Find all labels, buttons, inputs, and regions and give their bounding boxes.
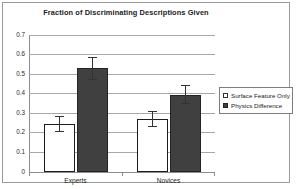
gridline: [29, 74, 215, 75]
error-bar-stem: [92, 57, 93, 80]
chart-legend: Surface Feature Only Physics Difference: [219, 87, 293, 114]
error-bar-cap-top: [181, 85, 190, 86]
error-bar-cap-top: [88, 57, 97, 58]
x-tick-label-experts: Experts: [46, 177, 106, 184]
x-axis-tick: [214, 172, 215, 176]
bar-novices-surface: [137, 119, 168, 172]
y-axis-tick-labels: 00.10.20.30.40.50.60.7: [1, 35, 25, 172]
y-tick-label: 0.7: [1, 32, 25, 38]
y-tick-label: 0.6: [1, 51, 25, 57]
plot-area: ExpertsNovices: [29, 35, 215, 172]
error-bar-cap-bottom: [55, 131, 64, 132]
error-bar-novices-physics: [181, 85, 190, 105]
legend-item-surface-feature-only: Surface Feature Only: [223, 91, 290, 100]
y-tick-label: 0.4: [1, 90, 25, 96]
bar-experts-physics: [77, 68, 108, 172]
gridline: [29, 35, 215, 36]
error-bar-stem: [59, 116, 60, 132]
legend-swatch-icon-surface: [223, 93, 228, 98]
error-bar-cap-bottom: [181, 103, 190, 104]
x-tick-label-novices: Novices: [139, 177, 199, 184]
error-bar-cap-bottom: [148, 126, 157, 127]
y-tick-label: 0.1: [1, 149, 25, 155]
error-bar-experts-physics: [88, 57, 97, 80]
error-bar-experts-surface: [55, 116, 64, 132]
y-tick-label: 0.5: [1, 71, 25, 77]
legend-label-physics: Physics Difference: [231, 102, 282, 109]
error-bar-cap-top: [148, 111, 157, 112]
legend-item-physics-difference: Physics Difference: [223, 101, 290, 110]
x-axis-tick: [29, 172, 30, 176]
gridline: [29, 54, 215, 55]
error-bar-cap-bottom: [88, 79, 97, 80]
y-tick-label: 0.3: [1, 110, 25, 116]
error-bar-novices-surface: [148, 111, 157, 127]
chart-frame: Fraction of Discriminating Descriptions …: [2, 2, 290, 183]
y-tick-label: 0: [1, 169, 25, 175]
error-bar-stem: [185, 85, 186, 105]
x-axis-tick: [122, 172, 123, 176]
y-tick-label: 0.2: [1, 129, 25, 135]
error-bar-cap-top: [55, 116, 64, 117]
legend-label-surface: Surface Feature Only: [231, 92, 290, 99]
chart-title: Fraction of Discriminating Descriptions …: [3, 8, 249, 17]
bar-novices-physics: [170, 95, 201, 172]
legend-swatch-icon-physics: [223, 103, 228, 108]
error-bar-stem: [152, 111, 153, 127]
